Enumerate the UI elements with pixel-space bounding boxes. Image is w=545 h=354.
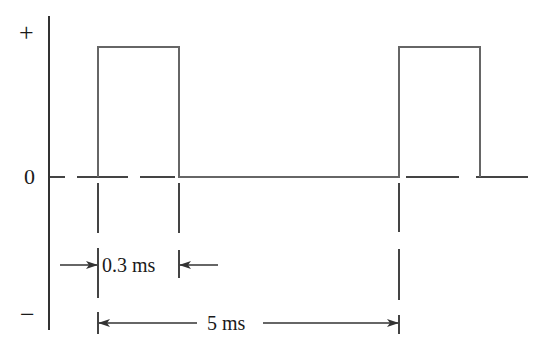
period-label: 5 ms bbox=[203, 313, 249, 333]
pulse-signal-line bbox=[98, 47, 480, 177]
axis-label-zero: 0 bbox=[24, 166, 35, 188]
pulse-width-label: 0.3 ms bbox=[102, 255, 155, 275]
axis-label-negative: − bbox=[20, 302, 35, 328]
axis-label-positive: + bbox=[19, 20, 34, 46]
waveform-canvas bbox=[0, 0, 545, 354]
